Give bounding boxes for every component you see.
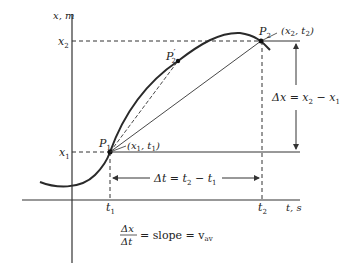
p2-coord-label: (x2, t2) [281, 25, 314, 38]
p1-coord-label: (x1, t1) [127, 140, 160, 153]
x2-tick-label: x2 [58, 35, 69, 50]
delta-x-label: Δx = x2 − x1 [271, 91, 340, 106]
point-p2 [259, 39, 264, 44]
p2-label: P2 [258, 25, 271, 40]
chord-p1-p2prime [110, 61, 178, 152]
x1-tick-label: x1 [59, 146, 70, 161]
t1-tick-label: t1 [106, 201, 115, 216]
point-p2prime [176, 59, 180, 63]
p2prime-label: P′2 [165, 48, 176, 65]
p1-label: P1 [98, 137, 111, 152]
position-curve [40, 33, 270, 187]
formula-rhs: = slope = vav [140, 229, 213, 243]
formula-numerator: Δx [120, 223, 134, 234]
x-axis-label: t, s [286, 202, 302, 213]
diagram-canvas: x, m t, s x2 x1 t1 t2 P1 (x1, t1) P2 (x2… [0, 0, 347, 278]
t2-tick-label: t2 [258, 201, 267, 216]
chord-p1-p2 [110, 41, 261, 152]
delta-t-label: Δt = t2 − t1 [153, 172, 217, 187]
formula-denominator: Δt [120, 236, 133, 247]
y-axis-label: x, m [53, 10, 74, 21]
